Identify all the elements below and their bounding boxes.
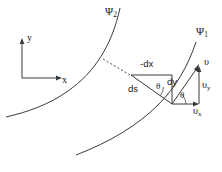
psi-2-subscript: 2 [113, 10, 117, 19]
dx-label: -dx [140, 59, 153, 69]
velocity-label-vx: υx [193, 106, 201, 118]
streamline-psi-1-curve [76, 42, 196, 155]
vy-subscript: y [207, 84, 210, 91]
y-axis-label: y [27, 33, 32, 43]
theta-label-lower: θ [180, 91, 184, 100]
dy-label: dy [167, 77, 177, 87]
streamline-psi-2-curve [6, 8, 120, 117]
diagram-canvas [0, 0, 222, 172]
psi-2-symbol: Ψ [105, 5, 113, 17]
y-axis-arrowhead-icon [20, 38, 25, 44]
x-axis-label: x [62, 75, 67, 85]
theta-arc-upper [160, 87, 164, 96]
psi-1-subscript: 1 [204, 30, 208, 39]
velocity-label-v: υ [204, 57, 209, 67]
coordinate-axes [20, 38, 62, 80]
streamline-label-psi-1: Ψ1 [196, 26, 208, 39]
velocity-label-vy: υy [202, 80, 210, 92]
streamline-diagram: Ψ2 Ψ1 y x -dx dy ds θ θ υ υy υx [0, 0, 222, 172]
vx-subscript: x [198, 110, 201, 117]
theta-label-upper: θ [156, 82, 160, 91]
dashed-connector-line [103, 59, 130, 75]
ds-label: ds [128, 84, 138, 94]
psi-1-symbol: Ψ [196, 25, 204, 37]
streamline-label-psi-2: Ψ2 [105, 6, 117, 19]
